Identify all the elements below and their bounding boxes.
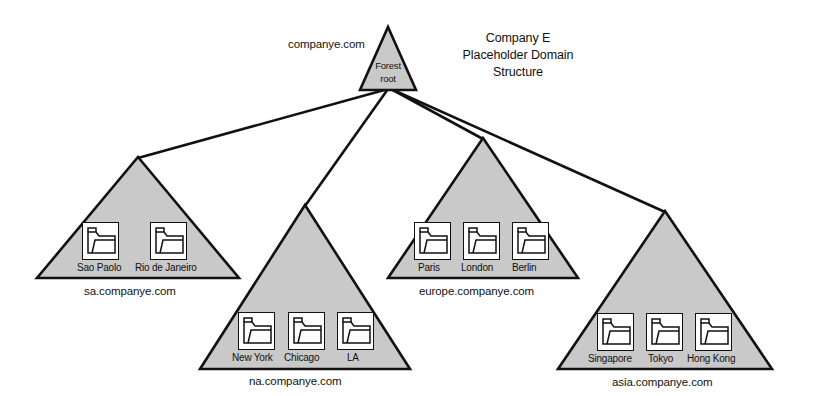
folder-icon-paris[interactable] xyxy=(414,222,451,260)
folder-icon xyxy=(151,223,188,261)
diagram-title-line-3: Structure xyxy=(448,64,588,81)
folder-icon xyxy=(647,314,684,352)
diagram-title-line-2: Placeholder Domain xyxy=(448,47,588,64)
folder-icon xyxy=(513,223,550,261)
site-label-sao-paolo: Sao Paolo xyxy=(77,262,121,274)
folder-icon-chicago[interactable] xyxy=(288,312,325,350)
folder-icon xyxy=(696,314,733,352)
connector-root-to-sa xyxy=(138,89,388,158)
site-label-chicago: Chicago xyxy=(284,352,319,364)
site-label-rio-de-janeiro: Rio de Janeiro xyxy=(135,262,197,274)
folder-icon xyxy=(415,223,452,261)
folder-icon-hong-kong[interactable] xyxy=(695,313,732,351)
folder-icon-sao-paolo[interactable] xyxy=(82,222,119,260)
folder-icon xyxy=(464,223,501,261)
connector-root-to-na xyxy=(305,89,388,206)
diagram-title-line-1: Company E xyxy=(448,30,588,47)
folder-icon-new-york[interactable] xyxy=(238,312,275,350)
domain-label-asia: asia.companye.com xyxy=(612,376,713,390)
root-domain-label: companye.com xyxy=(288,38,365,52)
site-label-tokyo: Tokyo xyxy=(648,353,673,365)
folder-icon xyxy=(289,313,326,351)
diagram-title: Company E Placeholder Domain Structure xyxy=(448,30,588,81)
connector-root-to-asia xyxy=(391,89,665,212)
site-label-paris: Paris xyxy=(418,262,440,274)
domain-label-europe: europe.companye.com xyxy=(419,285,534,299)
diagram-canvas xyxy=(0,0,813,396)
folder-icon-tokyo[interactable] xyxy=(646,313,683,351)
domain-label-na: na.companye.com xyxy=(249,375,341,389)
folder-icon xyxy=(239,313,276,351)
connector-lines xyxy=(138,89,665,212)
folder-icon-london[interactable] xyxy=(463,222,500,260)
root-caption-line2: root xyxy=(371,73,405,84)
site-label-hong-kong: Hong Kong xyxy=(687,353,735,365)
site-label-new-york: New York xyxy=(232,352,273,364)
folder-icon xyxy=(83,223,120,261)
folder-icon-rio-de-janeiro[interactable] xyxy=(150,222,187,260)
site-label-london: London xyxy=(461,262,493,274)
folder-icon-berlin[interactable] xyxy=(512,222,549,260)
folder-icon-singapore[interactable] xyxy=(597,313,634,351)
domain-triangle-sa xyxy=(37,157,239,278)
folder-icon-la[interactable] xyxy=(337,312,374,350)
domain-structure-diagram: companye.com Forest root Company E Place… xyxy=(0,0,813,396)
site-label-berlin: Berlin xyxy=(512,262,536,274)
root-caption-line1: Forest xyxy=(371,60,405,71)
domain-label-sa: sa.companye.com xyxy=(84,285,176,299)
site-label-la: LA xyxy=(347,352,359,364)
folder-icon xyxy=(338,313,375,351)
site-label-singapore: Singapore xyxy=(588,353,632,365)
folder-icon xyxy=(598,314,635,352)
